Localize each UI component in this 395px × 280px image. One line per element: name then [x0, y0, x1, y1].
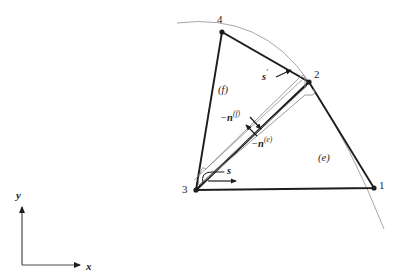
node-dot-2: [306, 79, 311, 84]
node-label-1: 1: [379, 180, 385, 191]
element-label-e: (e): [318, 153, 330, 164]
shared-edge-companion-upper: [194, 79, 303, 180]
domain-boundary-arc: [177, 22, 384, 229]
node-dot-4: [219, 29, 224, 34]
node-label-4: 4: [217, 14, 223, 25]
y-axis-label: y: [16, 190, 21, 201]
s-coordinate-label: s: [227, 166, 231, 177]
x-axis-label: x: [86, 261, 92, 272]
s-prime-arrow: [276, 70, 291, 77]
node-label-2: 2: [314, 69, 320, 80]
node-label-3: 3: [182, 184, 188, 195]
element-e-outline: [196, 82, 374, 190]
element-f-outline: [196, 32, 309, 190]
node-dot-1: [371, 185, 376, 190]
element-label-f: (f): [218, 85, 228, 96]
node-dot-3: [193, 187, 198, 192]
normal-e-label: −n(e): [251, 136, 272, 149]
element-f-inset-trace: [200, 75, 305, 174]
normal-f-label: −n(f): [220, 110, 240, 123]
figure-root: 1 2 3 4 (f) (e) −n(f) −n(e) s′ s y x: [0, 0, 395, 280]
s-prime-label: s′: [262, 69, 268, 82]
normal-f-arrow: [250, 117, 261, 129]
diagram-canvas: [0, 0, 395, 280]
